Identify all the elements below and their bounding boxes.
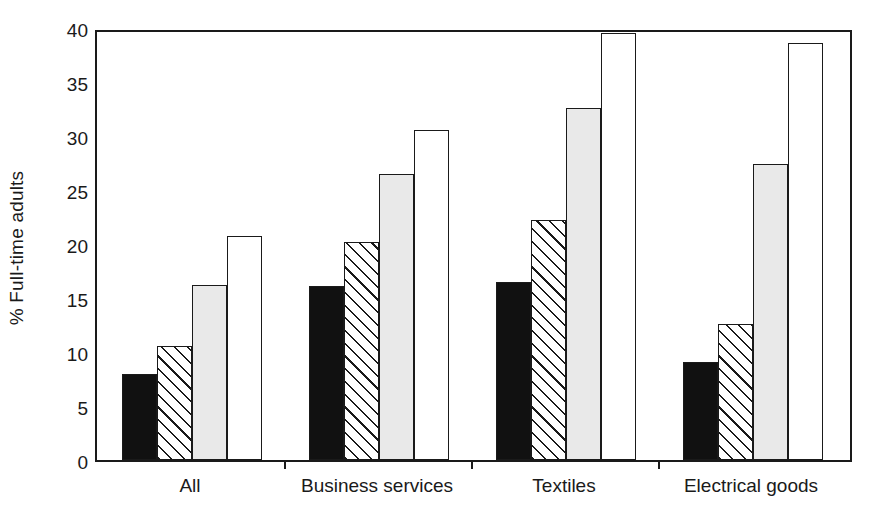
y-axis-tick-label: 5 [44,399,88,418]
y-axis-tick-labels: 0510152025303540 [38,0,88,522]
bar [227,236,262,460]
y-axis-tick-label: 15 [44,291,88,310]
bar [414,130,449,460]
x-axis-group-tick [471,462,473,469]
bar [718,324,753,460]
bar [683,362,718,460]
bar [379,174,414,460]
y-axis-tick-label: 20 [44,237,88,256]
y-axis-tick-label: 10 [44,345,88,364]
bars-layer [97,32,850,460]
x-axis-category-label: All [179,476,200,497]
y-axis-tick-label: 40 [44,21,88,40]
bar [753,164,788,460]
bar [531,220,566,460]
bar [566,108,601,460]
bar [496,282,531,460]
bar [309,286,344,460]
y-axis-tick-label: 30 [44,129,88,148]
bar [601,33,636,460]
y-axis-tick-label: 0 [44,453,88,472]
bar [788,43,823,460]
y-axis-tick-label: 25 [44,183,88,202]
bar [122,374,157,460]
x-axis-group-tick [284,462,286,469]
x-axis-group-tick [658,462,660,469]
bar [157,346,192,460]
bar [192,285,227,460]
y-axis-title: % Full-time adults [0,17,34,479]
plot-area [95,30,852,462]
x-axis-category-label: Business services [301,476,453,497]
x-axis-category-label: Electrical goods [684,476,818,497]
y-axis-tick-label: 35 [44,75,88,94]
bar [344,242,379,460]
bar-chart-figure: % Full-time adults 0510152025303540 AllB… [0,0,876,522]
x-axis-category-label: Textiles [532,476,595,497]
